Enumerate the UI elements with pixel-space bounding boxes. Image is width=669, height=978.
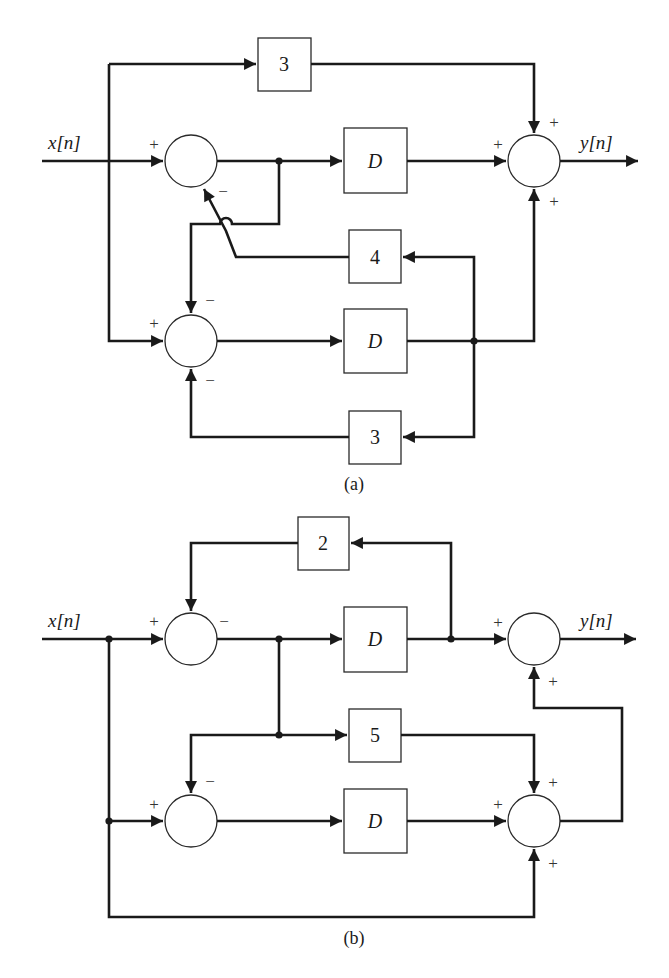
feedback-to-gain3-wire [403,341,474,437]
gain-label: 3 [279,53,289,75]
output-label: y[n] [578,610,613,631]
gain2-to-sum1-wire [191,543,298,611]
sign-plus: + [548,672,558,691]
output-label: y[n] [578,132,613,153]
delay2-to-output-wire [407,189,534,341]
sign-minus: − [205,291,215,310]
input-label: x[n] [47,132,81,153]
junction-dot [447,635,454,642]
sign-plus: + [548,854,558,873]
gain-label: 3 [370,426,380,448]
gain-label: 5 [370,724,380,746]
sign-plus: + [493,613,503,632]
gain5-to-sum3-wire [401,735,534,793]
sign-minus: − [219,612,229,631]
block-diagrams: x[n] y[n] 3 D 4 D 3 + − + + + − + − (a) [0,0,669,978]
output-summer [508,135,560,187]
input-bypass-wire [109,639,534,917]
to-sum2-wire [191,735,279,793]
sign-plus: + [149,795,159,814]
delay-label: D [367,150,383,172]
sign-plus: + [493,135,503,154]
sign-plus: + [149,135,159,154]
summer-2 [165,315,217,367]
sign-plus: + [149,612,159,631]
sign-plus: + [549,192,559,211]
diagram-a: x[n] y[n] 3 D 4 D 3 + − + + + − + − (a) [42,38,638,495]
caption-b: (b) [344,928,365,949]
sign-plus: + [548,773,558,792]
summer-3 [508,795,560,847]
diagram-b: x[n] y[n] 2 D 5 D + − + + − + + + + (b) [42,517,636,949]
sign-plus: + [493,795,503,814]
input-label: x[n] [47,610,81,631]
summer-1 [165,135,217,187]
sign-plus: + [149,314,159,333]
delay-label: D [367,810,383,832]
output-summer [508,613,560,665]
gain-label: 4 [370,246,380,268]
gain-label: 2 [318,532,328,554]
sign-minus: − [218,182,228,201]
sign-minus: − [205,371,215,390]
delay-label: D [367,628,383,650]
caption-a: (a) [344,474,364,495]
summer-2 [165,795,217,847]
gain-to-output-wire [311,64,534,133]
summer-1 [165,613,217,665]
input-branch-wire [109,64,163,341]
feedback-to-gain4-wire [403,257,474,341]
sign-plus: + [549,113,559,132]
sign-minus: − [205,772,215,791]
delay-label: D [367,330,383,352]
